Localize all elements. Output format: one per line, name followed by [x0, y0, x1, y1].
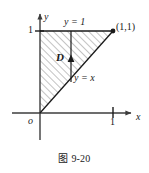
origin-label: o — [28, 116, 33, 126]
x-axis-tick-label-one: 1 — [110, 117, 115, 127]
y-axis-label: y — [44, 12, 48, 22]
y-axis-tick-label-one: 1 — [28, 25, 33, 35]
vertex-point-label: (1,1) — [116, 22, 135, 32]
figure-caption: 图 9-20 — [0, 150, 149, 165]
figure-container: y x o 1 1 y = 1 y = x D (1,1) 图 9-20 — [0, 0, 149, 173]
x-axis-label: x — [136, 112, 140, 122]
vertex-point-marker — [111, 29, 116, 34]
equation-label-y-equals-x: y = x — [74, 73, 95, 83]
equation-label-y-equals-1: y = 1 — [64, 17, 85, 27]
region-label-d: D — [56, 52, 64, 63]
